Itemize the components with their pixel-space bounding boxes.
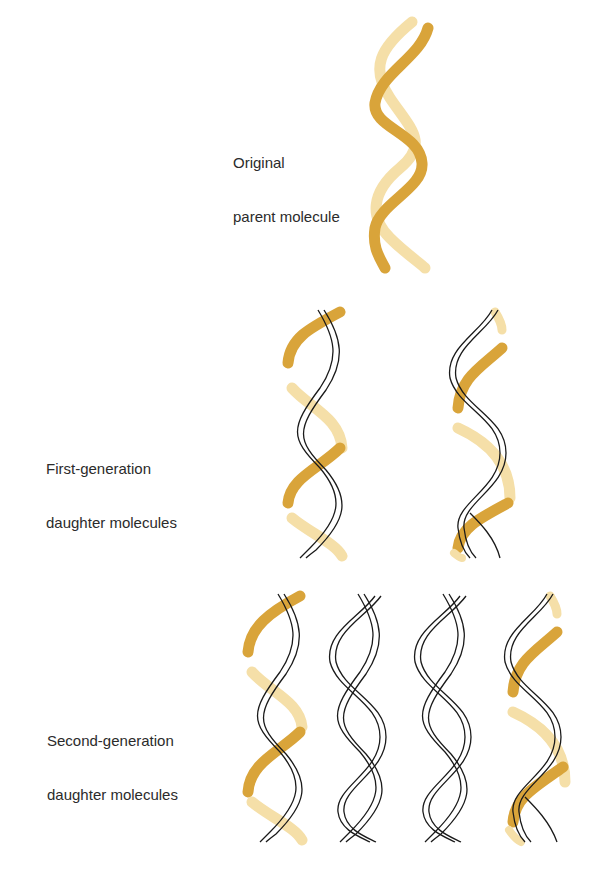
- label-second-generation: Second-generation daughter molecules: [47, 696, 178, 822]
- label-original-parent: Original parent molecule: [233, 118, 340, 244]
- label-first-generation: First-generation daughter molecules: [46, 424, 177, 550]
- label-second-line2: daughter molecules: [47, 786, 178, 804]
- label-first-line2: daughter molecules: [46, 514, 177, 532]
- second-gen-molecule-4: [495, 592, 575, 842]
- parent-molecule-helix: [360, 18, 440, 268]
- second-gen-molecule-1: [240, 592, 320, 842]
- first-gen-molecule-1: [280, 308, 360, 558]
- label-original-line1: Original: [233, 154, 340, 172]
- first-gen-molecule-2: [440, 308, 520, 558]
- label-second-line1: Second-generation: [47, 732, 178, 750]
- label-original-line2: parent molecule: [233, 208, 340, 226]
- second-gen-molecule-2: [320, 592, 400, 842]
- second-gen-molecule-3: [405, 592, 485, 842]
- label-first-line1: First-generation: [46, 460, 177, 478]
